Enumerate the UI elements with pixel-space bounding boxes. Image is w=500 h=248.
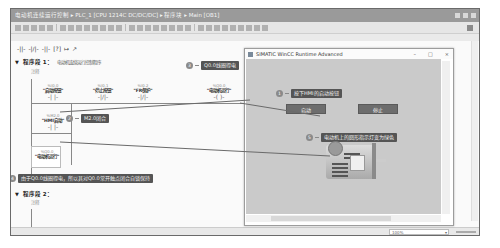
close-icon[interactable] bbox=[471, 13, 476, 18]
minimize-icon[interactable] bbox=[455, 13, 460, 18]
hmi-window-controls: – □ × bbox=[414, 49, 449, 59]
toolbar-icon[interactable] bbox=[31, 25, 37, 31]
toolbar-icon[interactable] bbox=[23, 25, 29, 31]
hmi-vertical-scrollbar[interactable] bbox=[442, 61, 450, 214]
callout-connector bbox=[285, 93, 289, 94]
motor-nameplate bbox=[350, 155, 365, 171]
network-1-comment-title[interactable]: 电动机连续运行控制程序 bbox=[57, 59, 101, 65]
toolbar-icon[interactable] bbox=[214, 25, 220, 31]
close-branch-icon[interactable]: ↗ bbox=[72, 45, 77, 52]
toolbar-icon[interactable] bbox=[222, 25, 228, 31]
hmi-start-button[interactable]: 启动 bbox=[286, 104, 326, 114]
sub-toolbar bbox=[11, 34, 479, 41]
contact-stop-button[interactable]: %I0.1 "停止按钮" -|/|- bbox=[83, 83, 123, 100]
callout-connector bbox=[195, 65, 199, 66]
motor-fin bbox=[332, 175, 348, 177]
open-branch-icon[interactable]: ↦ bbox=[64, 45, 69, 52]
status-bar: 100% ▾ bbox=[11, 227, 479, 235]
branch-line bbox=[31, 133, 71, 134]
toolbar-icon[interactable] bbox=[116, 25, 122, 31]
zoom-value: 100% bbox=[392, 230, 403, 235]
power-rail bbox=[31, 209, 32, 227]
toolbar-icon[interactable] bbox=[177, 25, 183, 31]
toolbar-icon[interactable] bbox=[137, 25, 143, 31]
zoom-slider[interactable] bbox=[456, 231, 476, 233]
toolbar-icon[interactable] bbox=[60, 25, 66, 31]
callout-4: 4 由于Q0.0线圈得电，所以其对Q0.0常开触点闭合自锁保持 bbox=[10, 174, 153, 183]
contact-seal-in[interactable]: %Q0.0 "电动机运行" bbox=[31, 146, 61, 168]
collapse-caret-icon[interactable]: ▼ bbox=[15, 191, 19, 197]
toolbar-icon[interactable] bbox=[129, 25, 135, 31]
toolbar-icon[interactable] bbox=[39, 25, 45, 31]
collapse-caret-icon[interactable]: ▼ bbox=[15, 59, 19, 65]
window-title: 电动机连续运行控制 ▸ PLC_1 [CPU 1214C DC/DC/DC] ▸… bbox=[15, 12, 220, 18]
hmi-horizontal-scrollbar[interactable] bbox=[246, 215, 441, 222]
no-contact-icon[interactable]: -||- bbox=[17, 45, 25, 52]
main-toolbar bbox=[11, 22, 479, 34]
network-2-title: 程序段 2： bbox=[23, 190, 53, 198]
motor-status-indicator bbox=[328, 141, 343, 156]
panel-toggle-icon[interactable] bbox=[467, 25, 473, 31]
motor-fin bbox=[332, 163, 348, 165]
zoom-dropdown[interactable]: 100% ▾ bbox=[389, 229, 449, 235]
toolbar-icon[interactable] bbox=[262, 25, 268, 31]
toolbar-separator bbox=[56, 24, 57, 31]
motor-shaft bbox=[376, 159, 386, 162]
toolbar-icon[interactable] bbox=[169, 25, 175, 31]
toolbar-icon[interactable] bbox=[84, 25, 90, 31]
network-1-header[interactable]: ▼ 程序段 1： 电动机连续运行控制程序 bbox=[15, 57, 101, 66]
callout-connector bbox=[75, 118, 79, 119]
toolbar-icon[interactable] bbox=[47, 25, 53, 31]
contact-fr-protection[interactable]: %I0.2 "FR保护" -|/|- bbox=[123, 83, 163, 100]
toolbar-icon[interactable] bbox=[238, 25, 244, 31]
hmi-screen: 1 按下HMI的启动按钮 启动 停止 5 电动机上的圆形指示灯变为绿色 bbox=[246, 59, 441, 214]
network-2-header[interactable]: ▼ 程序段 2： bbox=[15, 189, 53, 198]
network-1-comment[interactable]: 注释 bbox=[31, 68, 39, 74]
toolbar-icon[interactable] bbox=[153, 25, 159, 31]
network-2-comment[interactable]: 注释 bbox=[31, 199, 39, 205]
toolbar-icon[interactable] bbox=[185, 25, 191, 31]
toolbar-icon[interactable] bbox=[206, 25, 212, 31]
seal-in-contact: %Q0.0 "电动机运行" bbox=[27, 149, 67, 160]
callout-2: 2 M2.0闭合 bbox=[66, 114, 109, 123]
callout-connector bbox=[315, 137, 319, 138]
toolbar-icon[interactable] bbox=[108, 25, 114, 31]
coil-icon[interactable]: -||- bbox=[42, 45, 50, 52]
scroll-thumb[interactable] bbox=[271, 216, 391, 221]
toolbar-icon[interactable] bbox=[92, 25, 98, 31]
toolbar-icon[interactable] bbox=[161, 25, 167, 31]
motor-fin bbox=[332, 171, 348, 173]
empty-box-icon[interactable]: [?] bbox=[53, 45, 61, 52]
wincc-runtime-window: SIMATIC WinCC Runtime Advanced – □ × 1 按… bbox=[244, 48, 454, 226]
editor-vertical-scrollbar[interactable] bbox=[471, 41, 478, 221]
motor-fin bbox=[332, 167, 348, 169]
close-icon[interactable]: × bbox=[445, 49, 449, 59]
coil-motor-run[interactable]: %Q0.0 "电动机运行" -( )- bbox=[199, 83, 239, 100]
callout-1: 1 按下HMI的启动按钮 bbox=[276, 89, 342, 98]
window-controls bbox=[455, 9, 476, 22]
ladder-instruction-toolbar: -||- -|/|- -||- [?] ↦ ↗ bbox=[17, 45, 77, 52]
maximize-icon[interactable]: □ bbox=[428, 49, 433, 59]
dropdown-arrow-icon: ▾ bbox=[445, 230, 447, 235]
toolbar-separator bbox=[125, 24, 126, 31]
toolbar-icon[interactable] bbox=[76, 25, 82, 31]
title-bar: 电动机连续运行控制 ▸ PLC_1 [CPU 1214C DC/DC/DC] ▸… bbox=[11, 9, 479, 22]
callout-3: 3 Q0.0线圈得电 bbox=[186, 61, 239, 70]
hmi-stop-button[interactable]: 停止 bbox=[358, 104, 398, 114]
toolbar-icon[interactable] bbox=[100, 25, 106, 31]
toolbar-separator bbox=[194, 24, 195, 31]
contact-start-button[interactable]: %I0.0 "启动按钮" -| |- bbox=[33, 83, 73, 100]
toolbar-icon[interactable] bbox=[68, 25, 74, 31]
toolbar-icon[interactable] bbox=[254, 25, 260, 31]
toolbar-icon[interactable] bbox=[15, 25, 21, 31]
toolbar-icon[interactable] bbox=[198, 25, 204, 31]
minimize-icon[interactable]: – bbox=[414, 49, 417, 59]
wincc-logo-icon bbox=[248, 52, 253, 57]
network-1-title: 程序段 1： bbox=[23, 58, 53, 66]
toolbar-icon[interactable] bbox=[230, 25, 236, 31]
toolbar-icon[interactable] bbox=[145, 25, 151, 31]
toolbar-icon[interactable] bbox=[246, 25, 252, 31]
nc-contact-icon[interactable]: -|/|- bbox=[28, 45, 38, 52]
motor-graphic[interactable] bbox=[326, 141, 386, 181]
restore-icon[interactable] bbox=[463, 13, 468, 18]
